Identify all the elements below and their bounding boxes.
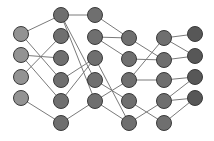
hidden-1-node bbox=[54, 73, 69, 88]
output-node bbox=[188, 27, 203, 42]
hidden-3-node bbox=[122, 116, 137, 131]
neural-network-diagram bbox=[0, 0, 214, 141]
hidden-3-node bbox=[122, 52, 137, 67]
input-node bbox=[14, 27, 29, 42]
hidden-1-node bbox=[54, 94, 69, 109]
hidden-2-node bbox=[88, 51, 103, 66]
hidden-4-node bbox=[157, 31, 172, 46]
hidden-3-node bbox=[122, 94, 137, 109]
hidden-2-node bbox=[88, 94, 103, 109]
hidden-3-node bbox=[122, 73, 137, 88]
input-node bbox=[14, 70, 29, 85]
hidden-4-node bbox=[157, 94, 172, 109]
hidden-2-node bbox=[88, 73, 103, 88]
connection-edge bbox=[61, 15, 95, 80]
output-node bbox=[188, 49, 203, 64]
hidden-4-node bbox=[157, 116, 172, 131]
hidden-2-node bbox=[88, 30, 103, 45]
hidden-3-node bbox=[122, 31, 137, 46]
output-node bbox=[188, 91, 203, 106]
input-node bbox=[14, 91, 29, 106]
input-node bbox=[14, 48, 29, 63]
hidden-1-node bbox=[54, 8, 69, 23]
hidden-4-node bbox=[157, 73, 172, 88]
hidden-2-node bbox=[88, 8, 103, 23]
neurons bbox=[14, 8, 203, 131]
hidden-4-node bbox=[157, 53, 172, 68]
hidden-1-node bbox=[54, 51, 69, 66]
hidden-1-node bbox=[54, 29, 69, 44]
hidden-1-node bbox=[54, 116, 69, 131]
output-node bbox=[188, 70, 203, 85]
